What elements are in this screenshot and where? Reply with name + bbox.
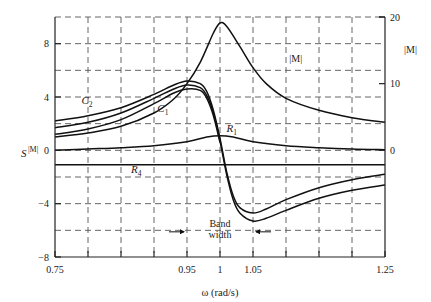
y-right-tick-label: 0 — [390, 145, 395, 156]
x-tick-label: 0.95 — [178, 264, 196, 275]
sensitivity-chart: 0.750.9511.051.25−8−404801020 C2C1R1R4|M… — [0, 0, 431, 302]
x-tick-label: 1.25 — [376, 264, 394, 275]
bandwidth-arrowhead-left — [180, 229, 185, 234]
y-tick-label: 4 — [44, 92, 49, 103]
y-right-tick-label: 10 — [390, 78, 400, 89]
annotation-label: C2 — [81, 94, 92, 109]
x-tick-label: 1.05 — [244, 264, 262, 275]
y-right-tick-label: 20 — [390, 12, 400, 23]
x-axis-label: ω (rad/s) — [202, 287, 239, 299]
y-tick-label: 8 — [44, 38, 49, 49]
y-axis-label-left-superscript: |M| — [28, 145, 38, 154]
y-tick-label: 0 — [44, 145, 49, 156]
x-tick-label: 1 — [218, 264, 223, 275]
y-axis-label-left: S — [21, 147, 27, 159]
y-axis-label-right: |M| — [404, 44, 417, 55]
y-tick-label: −8 — [38, 252, 49, 263]
y-tick-label: −4 — [38, 198, 49, 209]
annotation-label: width — [209, 229, 232, 240]
x-tick-label: 0.75 — [46, 264, 64, 275]
annotation-label: |M| — [289, 53, 302, 64]
annotation-label: Band — [209, 218, 230, 229]
